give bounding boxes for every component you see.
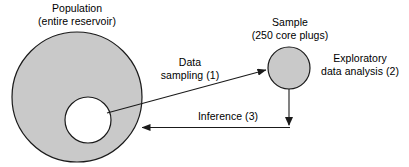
exploratory-analysis-label: Exploratory data analysis (2)	[314, 52, 406, 77]
population-label: Population (entire reservoir)	[22, 2, 132, 27]
population-inner-circle	[65, 97, 111, 143]
data-sampling-label: Data sampling (1)	[156, 56, 224, 81]
exploratory-analysis-label-line2: data analysis (2)	[314, 65, 406, 78]
population-circle	[12, 32, 142, 162]
sampling-inference-diagram: Population (entire reservoir) Sample (25…	[0, 0, 409, 167]
exploratory-analysis-label-line1: Exploratory	[314, 52, 406, 65]
sample-label-line2: (250 core plugs)	[240, 29, 340, 42]
sample-circle	[268, 47, 310, 89]
inference-label: Inference (3)	[183, 110, 273, 123]
sample-label-line1: Sample	[240, 16, 340, 29]
population-label-line2: (entire reservoir)	[22, 15, 132, 28]
data-sampling-label-line1: Data	[156, 56, 224, 69]
population-label-line1: Population	[22, 2, 132, 15]
data-sampling-label-line2: sampling (1)	[156, 69, 224, 82]
inference-label-line1: Inference (3)	[183, 110, 273, 123]
sample-label: Sample (250 core plugs)	[240, 16, 340, 41]
